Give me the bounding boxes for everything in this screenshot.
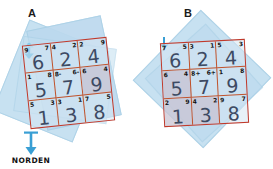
cell-value: 9 [218, 73, 247, 95]
cell-value: 3 [57, 103, 86, 126]
cell-value: 4 [216, 46, 245, 68]
cell-corner-right: 9 [185, 97, 190, 104]
compass-arrow [20, 130, 42, 156]
grid-cell[interactable]: 5 3 4 [216, 40, 245, 69]
cell-value: 8 [219, 102, 248, 123]
cell-value: 1 [164, 105, 192, 126]
cell-corner-right: 3 [50, 98, 55, 105]
cell-corner-left: 3 [57, 97, 62, 104]
cell-value: 1 [29, 105, 58, 128]
cell-corner-right: 2 [213, 96, 218, 103]
cell-value: 9 [81, 71, 111, 95]
grid-cell[interactable]: 8- 6- 7 [53, 68, 83, 98]
compass-label: NORDEN [8, 156, 54, 165]
cell-value: 2 [189, 48, 217, 70]
panel-a-label: A [28, 7, 36, 19]
cell-value: 3 [192, 103, 220, 124]
grid-cell[interactable]: 9 7 8 [219, 94, 248, 123]
grid-cell[interactable]: 6 4 5 [162, 70, 191, 99]
grid-cell[interactable]: 1 8 5 [26, 71, 56, 101]
grid-cell[interactable]: 9 7 6 [23, 44, 53, 74]
cell-value: 5 [163, 76, 191, 98]
cell-value: 2 [51, 47, 80, 71]
grid-cell[interactable]: 6 4 9 [81, 65, 111, 95]
cell-value: 4 [79, 44, 109, 68]
cell-corner-left: 9 [220, 96, 225, 103]
figure-root: A 9 7 6 4 2 2 [0, 0, 273, 169]
cell-value: 7 [54, 74, 83, 98]
cell-value: 6 [161, 49, 189, 71]
grid-cell[interactable]: 2 9 4 [78, 38, 108, 68]
sudoku-grid-a-wrapper: 9 7 6 4 2 2 2 9 4 1 8 5 [22, 37, 115, 129]
panel-b-label: B [184, 7, 192, 19]
grid-cell[interactable]: 7 5 8 [84, 92, 114, 122]
grid-cell[interactable]: 5 3 1 [29, 98, 59, 128]
grid-cell[interactable]: 4 2 3 [191, 96, 220, 125]
compass: NORDEN [8, 130, 54, 165]
cell-value: 5 [26, 77, 55, 101]
panel-b: B 7 5 6 3 1 2 5 [137, 0, 273, 169]
grid-cell[interactable]: 8+ 6+ 7 [190, 69, 219, 98]
grid-cell[interactable]: 4 2 2 [50, 41, 80, 71]
cell-corner-left: 2 [165, 99, 170, 106]
north-arrow-icon [20, 130, 42, 156]
cell-value: 8 [84, 100, 114, 123]
cell-corner-right: 5 [106, 92, 111, 99]
grid-cell[interactable]: 1 8 9 [218, 67, 247, 96]
cell-corner-left: 5 [30, 100, 35, 107]
cell-value: 6 [24, 50, 53, 74]
cell-value: 7 [190, 75, 218, 97]
grid-cell[interactable]: 3 1 2 [189, 41, 218, 70]
grid-cell[interactable]: 7 5 6 [161, 43, 190, 72]
cell-corner-right: 7 [241, 95, 246, 102]
sudoku-grid-b: 7 5 6 3 1 2 5 3 4 6 4 5 [160, 39, 249, 127]
grid-cell[interactable]: 2 9 1 [164, 97, 193, 126]
sudoku-grid-a: 9 7 6 4 2 2 2 9 4 1 8 5 [22, 37, 115, 129]
sudoku-grid-b-wrapper: 7 5 6 3 1 2 5 3 4 6 4 5 [160, 39, 249, 127]
panel-a: A 9 7 6 4 2 2 [0, 0, 137, 169]
grid-cell[interactable]: 3 1 3 [56, 95, 86, 125]
cell-corner-left: 4 [192, 97, 197, 104]
